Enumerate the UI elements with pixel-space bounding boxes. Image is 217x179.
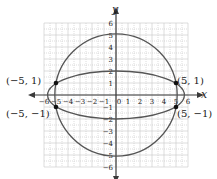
svg-text:−3: −3 <box>103 128 113 136</box>
svg-text:6: 6 <box>109 20 114 28</box>
svg-text:0: 0 <box>117 98 121 106</box>
svg-text:1: 1 <box>109 80 113 88</box>
svg-text:5: 5 <box>109 32 113 40</box>
svg-text:6: 6 <box>186 98 191 106</box>
intersection-point <box>54 81 59 86</box>
svg-text:−1: −1 <box>103 104 113 112</box>
svg-text:3: 3 <box>150 98 154 106</box>
svg-text:−4: −4 <box>63 98 74 106</box>
point-label-neg5-neg1: (−5, −1) <box>6 108 50 119</box>
svg-text:4: 4 <box>109 44 114 52</box>
intersection-point <box>54 105 59 110</box>
svg-text:−4: −4 <box>103 140 114 148</box>
svg-text:2: 2 <box>138 98 142 106</box>
point-label-neg5-1: (−5, 1) <box>6 75 41 86</box>
coordinate-plane: −6−5−4−3−2−10123456−6−5−4−3−2−1123456 x … <box>0 0 217 179</box>
svg-text:−6: −6 <box>103 164 114 172</box>
svg-text:4: 4 <box>162 98 167 106</box>
svg-text:1: 1 <box>126 98 130 106</box>
svg-text:3: 3 <box>109 56 113 64</box>
svg-text:−3: −3 <box>75 98 85 106</box>
y-axis-label: y <box>111 3 119 16</box>
point-label-5-1: (5, 1) <box>177 75 204 86</box>
point-label-5-neg1: (5, −1) <box>177 108 212 119</box>
x-axis-label: x <box>201 88 208 101</box>
svg-text:−2: −2 <box>87 98 97 106</box>
